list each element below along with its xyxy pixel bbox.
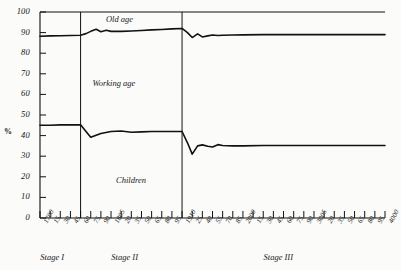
series-line-0	[40, 125, 385, 154]
y-tick-label: 90	[8, 27, 30, 37]
band-label-old-age: Old age	[106, 14, 133, 24]
y-tick-label: 60	[8, 88, 30, 98]
stage-label-2: Stage II	[111, 252, 138, 262]
y-tick-label: 20	[8, 171, 30, 181]
y-tick-label: 80	[8, 47, 30, 57]
y-tick-label: 10	[8, 191, 30, 201]
series-line-1	[40, 28, 385, 37]
band-label-working-age: Working age	[92, 78, 135, 88]
stage-divider-lines	[81, 12, 182, 218]
stage-label-3: Stage III	[264, 252, 294, 262]
band-label-children: Children	[116, 175, 146, 185]
y-tick-label: 100	[8, 6, 30, 16]
chart-figure: 0102030405060708090100 % 170015304560759…	[0, 0, 401, 270]
y-tick-label: 30	[8, 150, 30, 160]
y-axis-unit-label: %	[4, 127, 12, 136]
y-tick-label: 0	[8, 212, 30, 222]
y-axis-ticks	[40, 12, 46, 218]
chart-plot-area	[0, 0, 401, 270]
y-tick-label: 70	[8, 68, 30, 78]
y-tick-label: 50	[8, 109, 30, 119]
plot-frame	[40, 12, 385, 218]
chart-series-lines	[40, 28, 385, 154]
stage-label-1: Stage I	[40, 252, 64, 262]
